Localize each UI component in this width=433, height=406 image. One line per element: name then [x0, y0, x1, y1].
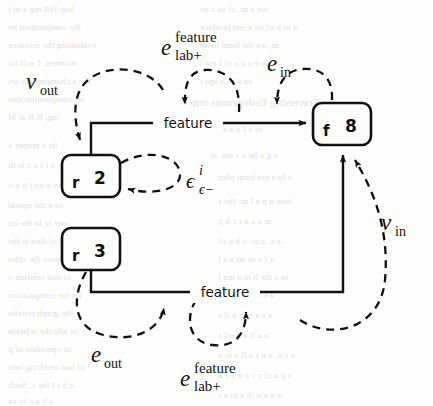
- label-v-in: v in: [381, 210, 406, 239]
- node-box-r2: [62, 155, 120, 197]
- node-box-f8: [313, 103, 371, 145]
- label-epsilon-sup: i: [199, 163, 203, 178]
- label-e-lab-feature-top-base: e: [161, 35, 171, 60]
- edge-label-feature-bottom: feature: [201, 284, 250, 300]
- edge-label-feature-bottom-group: feature: [190, 281, 260, 303]
- label-e-out: e out: [91, 342, 122, 371]
- label-v-in-sub: in: [395, 224, 406, 239]
- label-e-in-sub: in: [280, 65, 291, 80]
- label-e-lab-feature-bottom-sub: lab+: [194, 378, 221, 394]
- label-v-out-base: v: [26, 69, 37, 94]
- arc-epsilon-self-loop: [121, 155, 180, 192]
- edge-label-feature-top-group: feature: [153, 112, 223, 134]
- label-e-lab-feature-top-sup: feature: [175, 29, 217, 45]
- edge-label-feature-top: feature: [164, 115, 213, 131]
- graph-diagram-figure: hap 160 mg a m jthe computation beevalua…: [0, 0, 433, 406]
- arc-e-lab-feature-bottom: [190, 300, 246, 345]
- label-e-out-sub: out: [104, 356, 122, 371]
- label-e-out-base: e: [91, 342, 101, 367]
- arc-v-out: [75, 69, 163, 140]
- label-v-out-sub: out: [40, 83, 58, 98]
- label-e-in: e in: [267, 51, 291, 80]
- node-kind-r2: r: [72, 174, 80, 192]
- diagram-canvas: r2r3f8 feature feature v out: [0, 0, 433, 406]
- label-e-lab-feature-bottom-base: e: [180, 366, 190, 391]
- node-index-r3: 3: [94, 241, 106, 261]
- node-r2[interactable]: r2: [62, 155, 120, 197]
- node-index-f8: 8: [345, 116, 357, 136]
- label-epsilon-i: ϵ i ϵ−: [186, 163, 214, 197]
- label-epsilon-sub: ϵ−: [199, 182, 214, 197]
- label-e-lab-feature-bottom-sup: feature: [194, 360, 236, 376]
- label-e-lab-feature-top: e feature lab+: [161, 29, 217, 63]
- node-kind-r3: r: [72, 247, 80, 265]
- edge-feature-bottom: [91, 155, 343, 292]
- label-epsilon-base: ϵ: [186, 169, 196, 193]
- node-kind-f8: f: [323, 122, 330, 140]
- label-v-out: v out: [26, 69, 58, 98]
- node-r3[interactable]: r3: [62, 228, 120, 270]
- label-e-in-base: e: [267, 51, 277, 76]
- node-f8[interactable]: f8: [313, 103, 371, 145]
- label-v-in-base: v: [381, 210, 392, 235]
- label-e-lab-feature-top-sub: lab+: [175, 47, 202, 63]
- node-index-r2: 2: [94, 168, 106, 188]
- label-e-lab-feature-bottom: e feature lab+: [180, 360, 236, 394]
- node-box-r3: [62, 228, 120, 270]
- arc-e-lab-feature-top: [185, 70, 239, 112]
